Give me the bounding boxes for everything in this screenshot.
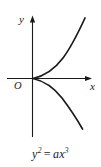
y-axis-label: y bbox=[18, 13, 24, 25]
curve-lower-branch bbox=[33, 79, 83, 130]
x-axis-label: x bbox=[89, 80, 95, 92]
equation-equals-sign: = bbox=[42, 147, 53, 161]
origin-label: O bbox=[14, 80, 22, 91]
figure-caption-equation: y2=ax3 bbox=[0, 146, 101, 162]
equation-rhs-exponent: 3 bbox=[65, 146, 69, 155]
curve-upper-branch bbox=[33, 18, 85, 79]
y-axis-arrow-icon bbox=[30, 16, 35, 23]
semicubical-parabola-figure: y x O bbox=[0, 0, 101, 167]
